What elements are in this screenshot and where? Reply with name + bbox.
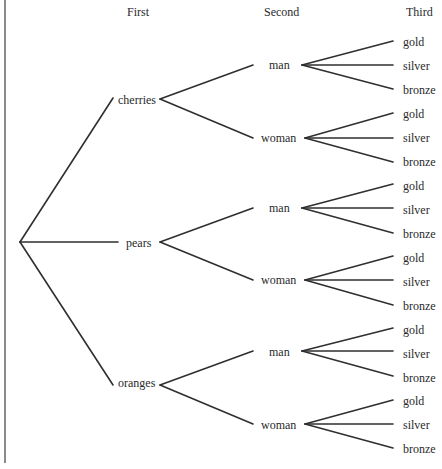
node-third-bronze: bronze [403, 155, 436, 169]
node-second-man: man [269, 201, 290, 215]
node-third-bronze: bronze [403, 371, 436, 385]
node-second-woman: woman [261, 273, 296, 287]
node-third-gold: gold [403, 35, 424, 49]
node-third-silver: silver [403, 418, 430, 432]
node-first-oranges: oranges [118, 376, 155, 390]
node-third-silver: silver [403, 347, 430, 361]
node-third-bronze: bronze [403, 299, 436, 313]
node-third-silver: silver [403, 275, 430, 289]
node-third-gold: gold [403, 107, 424, 121]
node-third-bronze: bronze [403, 442, 436, 456]
node-second-man: man [269, 58, 290, 72]
node-second-man: man [269, 345, 290, 359]
node-third-gold: gold [403, 394, 424, 408]
node-third-gold: gold [403, 179, 424, 193]
node-third-silver: silver [403, 203, 430, 217]
node-third-gold: gold [403, 323, 424, 337]
node-first-cherries: cherries [118, 93, 156, 107]
node-third-gold: gold [403, 251, 424, 265]
node-third-bronze: bronze [403, 83, 436, 97]
tree-diagram [0, 0, 442, 469]
node-first-pears: pears [126, 236, 151, 250]
node-second-woman: woman [261, 131, 296, 145]
node-second-woman: woman [261, 418, 296, 432]
node-third-silver: silver [403, 131, 430, 145]
node-third-silver: silver [403, 59, 430, 73]
node-third-bronze: bronze [403, 227, 436, 241]
